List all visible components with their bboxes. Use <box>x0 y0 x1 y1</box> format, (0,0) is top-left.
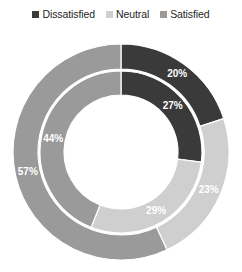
chart-legend: Dissatisfied Neutral Satisfied <box>0 9 242 20</box>
slice-label-inner-satisfied: 44% <box>43 133 63 144</box>
legend-swatch-satisfied <box>160 11 167 18</box>
legend-label-neutral: Neutral <box>116 9 149 20</box>
slice-label-outer-dissatisfied: 20% <box>167 68 187 79</box>
donut-svg: 20%23%57%27%29%44% <box>0 26 242 272</box>
legend-swatch-dissatisfied <box>32 11 39 18</box>
legend-item-satisfied[interactable]: Satisfied <box>160 9 209 20</box>
slice-label-outer-neutral: 23% <box>199 184 219 195</box>
legend-label-dissatisfied: Dissatisfied <box>42 9 95 20</box>
slice-label-outer-satisfied: 57% <box>18 166 38 177</box>
legend-label-satisfied: Satisfied <box>170 9 209 20</box>
legend-swatch-neutral <box>106 11 113 18</box>
legend-item-neutral[interactable]: Neutral <box>106 9 149 20</box>
slice-label-inner-dissatisfied: 27% <box>163 100 183 111</box>
chart-plot-area: 20%23%57%27%29%44% <box>0 26 242 272</box>
donut-chart: Dissatisfied Neutral Satisfied 20%23%57%… <box>0 0 242 272</box>
legend-item-dissatisfied[interactable]: Dissatisfied <box>32 9 95 20</box>
slice-label-inner-neutral: 29% <box>146 205 166 216</box>
